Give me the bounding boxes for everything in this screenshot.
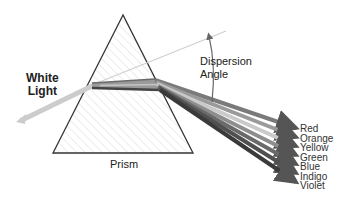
prism-dispersion-diagram <box>0 0 348 203</box>
spectrum-label-violet: Violet <box>300 181 325 191</box>
dispersion-label-line1: Dispersion <box>200 55 252 68</box>
dispersion-label-line2: Angle <box>200 68 252 81</box>
white-light-label-line2: Light <box>26 85 59 98</box>
white-light-label: White Light <box>26 72 59 98</box>
dispersion-angle-label: Dispersion Angle <box>200 55 252 81</box>
prism-label: Prism <box>110 158 138 170</box>
